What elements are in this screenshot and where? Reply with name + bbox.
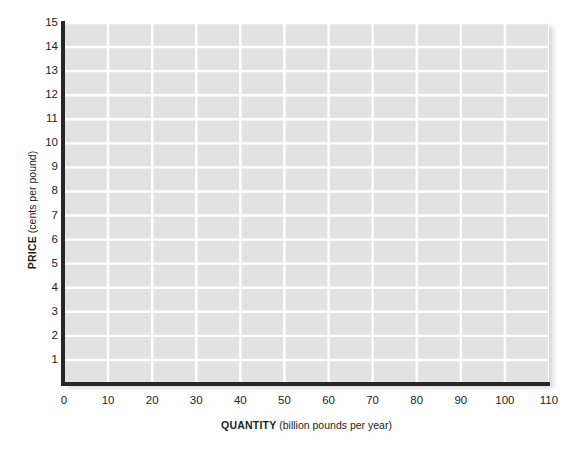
x-axis-tick-label: 70 [353,395,393,407]
x-axis-tick-label: 110 [529,395,569,407]
chart-figure: 123456789101112131415 010203040506070809… [0,0,588,449]
y-axis-tick-label: 15 [12,17,58,29]
y-axis-line [61,21,65,386]
y-axis-title-bold: PRICE [26,236,38,269]
y-axis-title: PRICE (cents per pound) [26,100,38,320]
x-axis-tick-label: 80 [397,395,437,407]
x-axis-tick-label: 50 [264,395,304,407]
x-axis-tick-label: 40 [220,395,260,407]
y-axis-title-unit: (cents per pound) [26,151,38,233]
x-axis-tick-label: 0 [44,395,84,407]
x-axis-tick-label: 100 [485,395,525,407]
x-axis-tick-label: 10 [88,395,128,407]
x-axis-tick-label: 90 [441,395,481,407]
x-axis-line [61,382,550,386]
y-axis-tick-label: 2 [12,330,58,342]
x-axis-title: QUANTITY (billion pounds per year) [64,419,549,431]
gridlines [64,23,549,384]
y-axis-tick-label: 14 [12,41,58,53]
x-axis-title-bold: QUANTITY [221,419,276,431]
x-axis-title-unit: (billion pounds per year) [279,419,392,431]
x-axis-tick-labels: 0102030405060708090100110 [0,395,588,411]
x-axis-tick-label: 60 [309,395,349,407]
x-axis-tick-label: 20 [132,395,172,407]
plot-area [64,23,549,384]
y-axis-tick-label: 1 [12,354,58,366]
x-axis-tick-label: 30 [176,395,216,407]
y-axis-tick-label: 13 [12,65,58,77]
